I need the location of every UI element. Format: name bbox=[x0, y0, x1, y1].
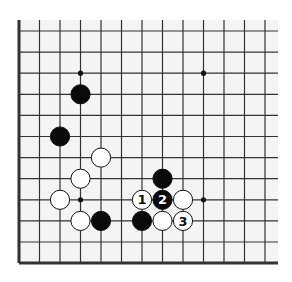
black-stone bbox=[153, 169, 172, 188]
star-point-icon bbox=[201, 71, 206, 76]
black-stone: 2 bbox=[153, 190, 172, 209]
white-stone: 3 bbox=[173, 211, 192, 230]
black-stone bbox=[91, 211, 110, 230]
move-number-label: 3 bbox=[178, 214, 187, 229]
star-point-icon bbox=[78, 71, 83, 76]
black-stone bbox=[132, 211, 151, 230]
go-board-diagram: 123 bbox=[0, 0, 292, 282]
move-number-label: 2 bbox=[158, 192, 167, 207]
star-point-icon bbox=[201, 197, 206, 202]
white-stone bbox=[153, 211, 172, 230]
white-stone bbox=[173, 190, 192, 209]
white-stone bbox=[91, 148, 110, 167]
white-stone bbox=[71, 169, 90, 188]
star-point-icon bbox=[78, 197, 83, 202]
white-stone bbox=[50, 190, 69, 209]
black-stone bbox=[50, 127, 69, 146]
white-stone: 1 bbox=[132, 190, 151, 209]
white-stone bbox=[71, 211, 90, 230]
move-number-label: 1 bbox=[137, 192, 146, 207]
black-stone bbox=[71, 85, 90, 104]
